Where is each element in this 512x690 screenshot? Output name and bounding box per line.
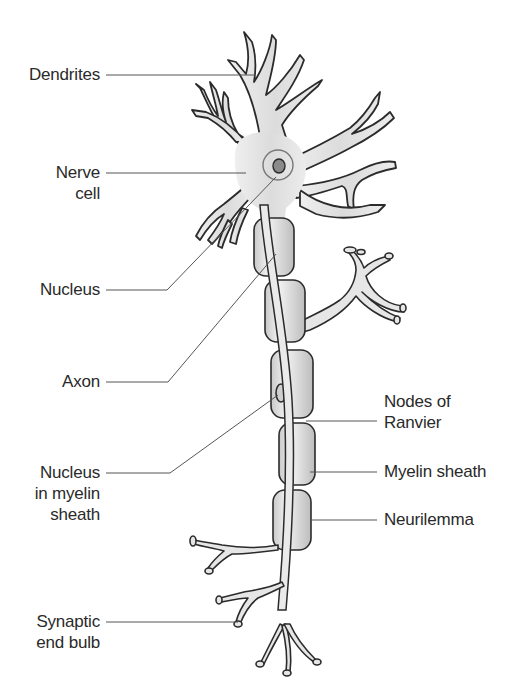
label-neurilemma: Neurilemma (384, 509, 474, 530)
label-nucleus-in-myelin-sheath: Nucleus in myelin sheath (35, 462, 100, 525)
axon-terminals (190, 536, 321, 676)
dendrites-shape (192, 32, 396, 248)
label-axon: Axon (62, 371, 100, 392)
neuron-diagram: Dendrites Nerve cell Nucleus Axon Nucleu… (0, 0, 512, 690)
neuron-illustration (0, 0, 512, 690)
myelin-segment-4 (279, 423, 315, 485)
label-nucleus: Nucleus (40, 279, 100, 300)
label-nodes-of-ranvier: Nodes of Ranvier (384, 391, 450, 433)
label-myelin-sheath: Myelin sheath (384, 461, 486, 482)
label-dendrites: Dendrites (29, 64, 100, 85)
axon-collateral (296, 247, 406, 334)
leader-myelin-nucleus (106, 395, 278, 473)
leader-axon (106, 254, 276, 382)
nucleolus (273, 159, 285, 173)
label-synaptic-end-bulb: Synaptic end bulb (36, 611, 100, 653)
label-nerve-cell: Nerve cell (56, 162, 100, 204)
